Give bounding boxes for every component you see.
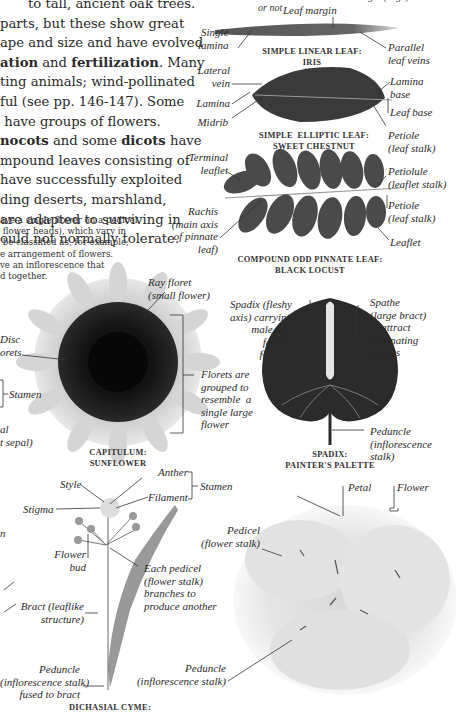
label-leaf-base: Leaf base — [390, 106, 432, 119]
label-bract: Bract (leaflike structure) — [10, 600, 84, 625]
chestnut-leaf-drawing — [252, 67, 392, 122]
label-spathe: Spathe (large bract) to attract pollinat… — [370, 296, 426, 359]
label-single-lamina: Single lamina — [198, 26, 229, 51]
label-pedicel: Pedicel (flower stalk) — [196, 524, 260, 549]
label-peduncle-cluster: Peduncle (inflorescence stalk) — [130, 662, 226, 687]
label-anther: Anther — [158, 466, 188, 479]
label-petal: Petal — [348, 481, 371, 494]
label-lamina-base: Lamina base — [390, 75, 424, 100]
label-spadix: Spadix (fleshy axis) carrying male and f… — [200, 298, 292, 361]
label-midrib: Midrib — [180, 116, 228, 129]
label-petiole-elliptic: Petiole (leaf stalk) — [388, 129, 435, 154]
small-paragraph: ave a single flower on a pedicel flower … — [0, 215, 137, 282]
caption-iris: SIMPLE LINEAR LEAF: IRIS — [252, 46, 372, 68]
black-locust-leaf-drawing — [221, 145, 400, 240]
label-sepal-fragment: al t sepal) — [0, 423, 33, 448]
label-parallel-veins: Parallel leaf veins — [388, 41, 430, 66]
caption-sunflower: CAPITULUM: SUNFLOWER — [68, 447, 168, 469]
label-petiolule: Petiolule (leaflet stalk) — [388, 165, 446, 190]
label-lamina: Lamina — [180, 97, 230, 110]
label-disc-florets: Disc orets — [0, 333, 20, 358]
caption-dichasial-cyme: DICHASIAL CYME: — [60, 702, 160, 713]
label-florets-grouped: Florets are grouped to resemble a single… — [201, 368, 253, 431]
label-stamen-left: Stamen — [9, 388, 41, 401]
flower-cluster-drawing — [233, 505, 456, 695]
label-leaf-margin: Leaf margin — [283, 4, 337, 17]
caption-chestnut: SIMPLE ELLIPTIC LEAF: SWEET CHESTNUT — [244, 130, 384, 152]
iris-leaf-drawing — [215, 23, 400, 36]
label-each-pedicel: Each pedicel (flower stalk) branches to … — [144, 562, 217, 612]
label-stigma: Stigma — [23, 503, 54, 516]
label-peduncle-spadix: Peduncle (inflorescence stalk) — [370, 425, 432, 463]
label-stamen-cyme: Stamen — [200, 480, 232, 493]
caption-painters-palette: SPADIX: PAINTER'S PALETTE — [282, 449, 378, 471]
label-flower-bud: Flower bud — [48, 548, 86, 573]
label-rachis: Rachis (main axis of pinnate leaf) — [162, 205, 218, 255]
label-peduncle-cyme: Peduncle (inflorescence stalk) fused to … — [0, 663, 80, 701]
label-flower: Flower — [397, 481, 429, 494]
caption-black-locust: COMPOUND ODD PINNATE LEAF: BLACK LOCUST — [220, 254, 400, 276]
label-terminal-leaflet: Terminal leaflet — [170, 151, 228, 176]
label-filament: Filament — [148, 491, 188, 504]
label-leaflet: Leaflet — [390, 236, 421, 249]
label-petiole-pinnate: Petiole (leaf stalk) — [388, 199, 435, 224]
label-lateral-vein: Lateral vein — [188, 64, 230, 89]
label-n-fragment: n — [0, 527, 6, 540]
label-style: Style — [60, 478, 81, 491]
